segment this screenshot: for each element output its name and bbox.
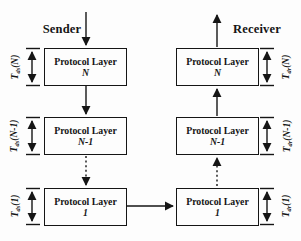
layer-name: Protocol Layer [186,196,249,207]
sender-layer-n-box: Protocol Layer N [44,48,127,86]
layer-id: N-1 [78,136,93,147]
sender-heading: Sender [43,22,82,37]
dimension-sender-layer-1 [26,189,40,225]
delay-label-sender-n: Tds(N) [10,55,21,80]
dimension-receiver-layer-n [260,49,274,86]
delay-label-sender-1: Tds(1) [10,195,21,218]
layer-id: N-1 [210,136,225,147]
delay-label-receiver-n1: Tdr(N-1) [282,120,293,153]
layer-name: Protocol Layer [186,56,249,67]
protocol-layer-delay-diagram: Sender Receiver Protocol Layer N Protoco… [0,0,301,241]
layer-id: 1 [215,207,220,218]
layer-name: Protocol Layer [54,125,117,136]
layer-name: Protocol Layer [54,196,117,207]
delay-label-receiver-n: Tdr(N) [281,55,292,80]
layer-name: Protocol Layer [186,125,249,136]
dimension-receiver-layer-1 [260,189,274,225]
layer-id: N [214,67,221,78]
receiver-layer-1-box: Protocol Layer 1 [176,188,259,226]
layer-id: N [82,67,89,78]
delay-label-receiver-1: Tdr(1) [281,195,292,218]
sender-layer-1-box: Protocol Layer 1 [44,188,127,226]
receiver-heading: Receiver [233,22,281,37]
dimension-receiver-layer-n1 [260,118,274,155]
layer-name: Protocol Layer [54,56,117,67]
receiver-layer-n-box: Protocol Layer N [176,48,259,86]
receiver-layer-n1-box: Protocol Layer N-1 [176,117,259,155]
layer-id: 1 [83,207,88,218]
dimension-sender-layer-n1 [26,118,40,155]
delay-label-sender-n1: Tds(N-1) [9,120,20,153]
sender-layer-n1-box: Protocol Layer N-1 [44,117,127,155]
dimension-sender-layer-n [26,49,40,86]
